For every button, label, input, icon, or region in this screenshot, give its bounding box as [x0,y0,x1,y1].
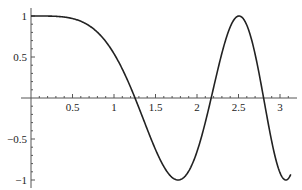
y-tick-label: −1 [15,174,27,186]
x-tick-label: 1 [111,101,117,113]
x-tick-label: 0.5 [66,101,80,113]
x-tick-label: 2 [194,101,200,113]
y-tick-label: 1 [22,10,28,22]
x-tick-label: 2.5 [232,101,246,113]
x-tick-label: 3 [277,101,283,113]
x-tick-label: 1.5 [149,101,163,113]
y-tick-label: −0.5 [7,133,27,145]
line-chart: 0.511.522.5310.5−0.5−1 [0,0,302,190]
y-tick-label: 0.5 [13,51,27,63]
